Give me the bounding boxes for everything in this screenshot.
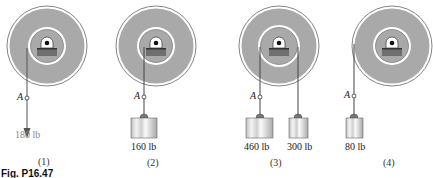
- load-label-3b: 300 lb: [287, 141, 312, 152]
- panel-3-pulley: [239, 6, 319, 138]
- panel-caption-1: (1): [38, 156, 50, 167]
- pulley-diagrams: [0, 0, 433, 178]
- load-label-4: 80 lb: [345, 141, 365, 152]
- panel-caption-4: (4): [383, 157, 395, 168]
- panel-caption-3: (3): [270, 157, 282, 168]
- load-label-3a: 460 lb: [244, 141, 269, 152]
- load-label-1: 180 lb: [15, 129, 40, 140]
- point-a-label-1: A: [17, 91, 23, 102]
- point-a-label-2: A: [134, 90, 140, 101]
- panel-2-pulley: [116, 6, 196, 138]
- point-a-label-3: A: [250, 90, 256, 101]
- panel-1-pulley: [7, 6, 87, 138]
- panel-4-pulley: [346, 6, 432, 138]
- panel-caption-2: (2): [147, 157, 159, 168]
- point-a-label-4: A: [344, 89, 350, 100]
- figure-caption: Fig. P16.47: [1, 168, 53, 178]
- load-label-2: 160 lb: [131, 141, 156, 152]
